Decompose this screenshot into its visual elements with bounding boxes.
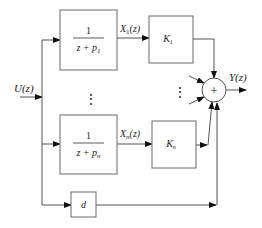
filter-block-1 bbox=[60, 10, 117, 70]
gain-n-to-summer-arrow bbox=[208, 102, 212, 145]
filter-1-numerator: 1 bbox=[86, 25, 91, 36]
signal-xn-label: Xn(z) bbox=[119, 128, 141, 141]
input-signal: U(z) bbox=[14, 82, 42, 97]
gain-1-to-summer-arrow bbox=[193, 39, 214, 78]
summer-input-ellipsis: ⋮ bbox=[173, 85, 187, 100]
summer-plus-icon: + bbox=[210, 83, 217, 98]
input-label: U(z) bbox=[14, 82, 34, 95]
branch-1: 1 z + p1 X1(z) K1 bbox=[42, 10, 214, 78]
output-label: Y(z) bbox=[229, 71, 247, 84]
block-diagram: U(z) 1 z + p1 X1(z) K1 ⋮ 1 z + pn Xn(z) … bbox=[0, 0, 262, 228]
filter-n-numerator: 1 bbox=[86, 130, 91, 141]
summing-junction: + bbox=[202, 78, 226, 102]
branch-n: 1 z + pn Xn(z) Kn bbox=[42, 102, 212, 174]
filter-block-n bbox=[60, 115, 117, 174]
summer-lower-input-arrow bbox=[189, 97, 204, 104]
signal-x1-label: X1(z) bbox=[119, 23, 141, 36]
summer-upper-input-arrow bbox=[189, 76, 204, 83]
output-signal: Y(z) bbox=[226, 71, 247, 90]
branch-ellipsis: ⋮ bbox=[84, 92, 98, 107]
